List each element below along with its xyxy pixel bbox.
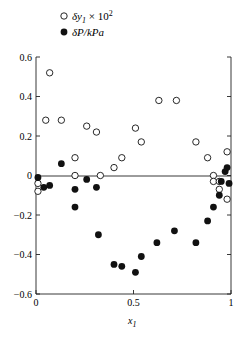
open-circle-point <box>111 164 117 170</box>
filled-circle-point <box>93 184 100 191</box>
y-tick-label: −0.2 <box>14 210 32 221</box>
data-points <box>35 70 233 276</box>
y-tick-label: 0.6 <box>20 52 33 63</box>
x-tick-label: 0 <box>34 297 39 308</box>
y-tick-label: −0.6 <box>14 289 32 300</box>
y-tick-label: 0.2 <box>20 131 33 142</box>
filled-circle-point <box>210 204 217 211</box>
open-circle-point <box>72 155 78 161</box>
open-circle-point <box>224 149 230 155</box>
open-circle-point <box>156 97 162 103</box>
filled-circle-point <box>72 186 79 193</box>
filled-circle-point <box>58 160 65 167</box>
plot-frame <box>36 57 231 294</box>
filled-circle-point <box>218 178 225 185</box>
filled-circle-point <box>171 227 178 234</box>
filled-circle-point <box>95 231 102 238</box>
filled-circle-point <box>83 176 90 183</box>
filled-circle-point <box>46 182 53 189</box>
legend-open-marker <box>61 13 67 19</box>
open-circle-point <box>193 139 199 145</box>
filled-circle-point <box>132 269 139 276</box>
scatter-chart: δy1 × 102 δP/kPa 0.60.40.20−0.2−0.4−0.60… <box>0 0 240 339</box>
legend-filled-label: δP/kPa <box>72 26 104 38</box>
x-tick-label: 1 <box>229 297 234 308</box>
open-circle-point <box>93 129 99 135</box>
legend: δy1 × 102 δP/kPa <box>61 9 113 38</box>
open-circle-point <box>35 188 41 194</box>
y-tick-label: −0.4 <box>14 249 32 260</box>
open-circle-point <box>224 196 230 202</box>
open-circle-point <box>138 139 144 145</box>
legend-filled-marker <box>61 29 68 36</box>
x-axis-label: x1 <box>127 315 136 329</box>
legend-open-label: δy1 × 102 <box>72 9 113 25</box>
filled-circle-point <box>118 263 125 270</box>
open-circle-point <box>35 180 41 186</box>
open-circle-point <box>46 70 52 76</box>
open-circle-point <box>132 125 138 131</box>
open-circle-point <box>43 117 49 123</box>
filled-circle-point <box>224 164 231 171</box>
filled-circle-point <box>72 204 79 211</box>
y-tick-label: 0.4 <box>20 91 33 102</box>
open-circle-point <box>173 97 179 103</box>
filled-circle-point <box>226 180 233 187</box>
y-tick-label: 0 <box>27 170 32 181</box>
filled-circle-point <box>138 253 145 260</box>
filled-circle-point <box>154 239 161 246</box>
filled-circle-point <box>216 192 223 199</box>
open-circle-point <box>97 172 103 178</box>
filled-circle-point <box>40 184 47 191</box>
open-circle-point <box>72 172 78 178</box>
filled-circle-point <box>193 239 200 246</box>
axis-ticks: 0.60.40.20−0.2−0.4−0.600.51 <box>14 52 234 309</box>
x-tick-label: 0.5 <box>127 297 140 308</box>
open-circle-point <box>119 155 125 161</box>
open-circle-point <box>216 186 222 192</box>
filled-circle-point <box>204 218 211 225</box>
open-circle-point <box>58 117 64 123</box>
open-circle-point <box>84 123 90 129</box>
open-circle-point <box>210 172 216 178</box>
open-circle-point <box>204 155 210 161</box>
filled-circle-point <box>111 261 118 268</box>
filled-circle-point <box>35 174 42 181</box>
